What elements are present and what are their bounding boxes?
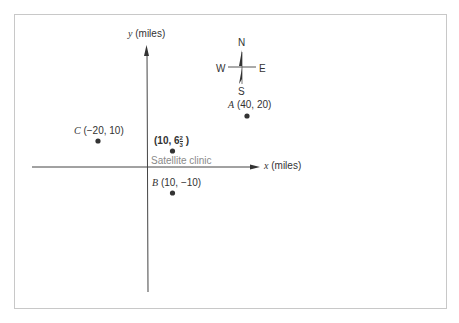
- point-a-label: A (40, 20): [228, 100, 271, 110]
- point-b-label: B (10, −10): [152, 178, 201, 188]
- y-axis-label: y (miles): [128, 29, 165, 39]
- coordinate-plane: [0, 0, 459, 323]
- y-axis-arrow-icon: [144, 45, 149, 56]
- point-b: [170, 190, 175, 195]
- point-c-label: C (−20, 10): [74, 126, 124, 136]
- point-c: [95, 138, 100, 143]
- x-axis-label: x (miles): [264, 161, 301, 171]
- compass-east: E: [259, 64, 266, 74]
- point-clinic: [170, 148, 175, 153]
- clinic-coords-label: (10, 623 ): [154, 135, 189, 148]
- compass-west: W: [216, 64, 225, 74]
- compass-icon: [228, 50, 256, 84]
- point-a: [244, 113, 249, 118]
- compass-north: N: [238, 38, 245, 48]
- compass-south: S: [238, 87, 245, 97]
- clinic-name-label: Satellite clinic: [151, 156, 212, 166]
- y-axis: [147, 52, 148, 292]
- x-axis-arrow-icon: [250, 165, 260, 170]
